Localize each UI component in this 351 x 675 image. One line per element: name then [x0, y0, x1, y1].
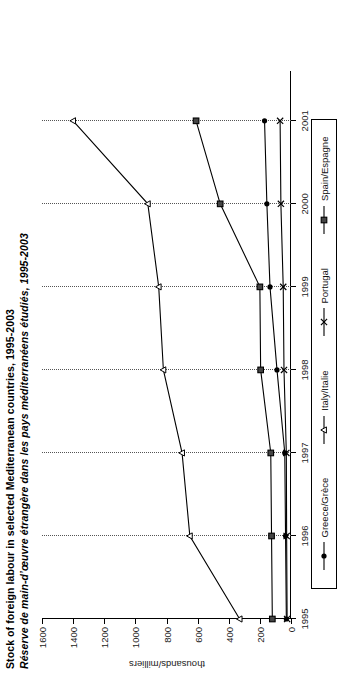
y-tick-label-200: 200	[254, 627, 265, 643]
y-tick-600	[198, 619, 199, 624]
legend-symbol-open-triangle-icon	[318, 415, 330, 445]
legend-item-italy-italie[interactable]: Italy/Italie	[318, 371, 330, 445]
y-tick-1000	[135, 619, 136, 624]
x-tick-label-1997: 1997	[299, 442, 310, 463]
x-tick-label-1995: 1995	[299, 608, 310, 629]
series-italy-italie	[70, 118, 242, 622]
x-tick-1998	[291, 369, 296, 370]
page-subtitle: Réserve de main-d’œuvre étrangère dans l…	[18, 109, 31, 669]
y-tick-800	[167, 619, 168, 624]
y-tick-1400	[73, 619, 74, 624]
x-tick-2000	[291, 203, 296, 204]
x-tick-label-1998: 1998	[299, 359, 310, 380]
marker-filled-circle	[262, 118, 267, 123]
marker-filled-circle	[321, 554, 326, 559]
marker-filled-square	[258, 367, 264, 373]
series-spain-espagne	[193, 118, 275, 622]
x-tick-label-1996: 1996	[299, 525, 310, 546]
x-tick-label-2001: 2001	[299, 110, 310, 131]
y-tick-label-600: 600	[192, 627, 203, 643]
legend-symbol-filled-square-icon	[318, 205, 330, 235]
rotated-chart-canvas: Stock of foreign labour in selected Medi…	[0, 0, 351, 675]
legend-label: Portugal	[319, 268, 330, 303]
legend-label: Greece/Grèce	[319, 478, 330, 538]
y-tick-label-400: 400	[223, 627, 234, 643]
marker-filled-circle	[264, 201, 269, 206]
plot-area: 02004006008001000120014001600 1995199619…	[42, 71, 291, 619]
x-tick-1995	[291, 618, 296, 619]
y-tick-label-1200: 1200	[99, 627, 110, 648]
y-axis-title-text: thousands/milliers	[128, 659, 204, 670]
legend-label: Italy/Italie	[319, 371, 330, 411]
series-greece-gr-ce	[262, 118, 289, 621]
marker-filled-square	[193, 118, 199, 124]
marker-filled-circle	[267, 284, 272, 289]
y-tick-0	[291, 619, 292, 624]
series-layer	[42, 71, 291, 619]
y-tick-1200	[104, 619, 105, 624]
marker-filled-square	[217, 201, 223, 207]
legend-item-portugal[interactable]: Portugal	[318, 268, 330, 337]
chart-legend: Greece/GrèceItaly/ItaliePortugalSpain/Es…	[311, 119, 337, 589]
legend-item-spain-espagne[interactable]: Spain/Espagne	[318, 137, 330, 235]
marker-filled-square	[270, 616, 276, 622]
legend-symbol-filled-circle-icon	[318, 541, 330, 571]
y-tick-label-1000: 1000	[130, 627, 141, 648]
marker-open-triangle	[70, 118, 76, 124]
y-tick-400	[229, 619, 230, 624]
marker-open-triangle	[236, 616, 242, 622]
marker-filled-circle	[274, 367, 279, 372]
x-tick-2001	[291, 120, 296, 121]
marker-filled-square	[257, 284, 263, 290]
marker-filled-square	[321, 217, 327, 223]
legend-label: Spain/Espagne	[319, 137, 330, 201]
y-tick-label-1600: 1600	[37, 627, 48, 648]
legend-symbol-cross-x-icon	[318, 308, 330, 338]
y-tick-label-800: 800	[161, 627, 172, 643]
x-tick-1997	[291, 452, 296, 453]
y-tick-200	[260, 619, 261, 624]
y-tick-label-1400: 1400	[68, 627, 79, 648]
y-axis-title: thousands/milliers	[42, 657, 291, 671]
y-tick-label-0: 0	[286, 627, 297, 632]
chart-title-block: Stock of foreign labour in selected Medi…	[4, 109, 31, 669]
page-title: Stock of foreign labour in selected Medi…	[4, 109, 17, 669]
marker-filled-square	[268, 450, 274, 456]
x-tick-1996	[291, 535, 296, 536]
marker-filled-square	[269, 533, 275, 539]
x-tick-label-2000: 2000	[299, 193, 310, 214]
x-tick-label-1999: 1999	[299, 276, 310, 297]
legend-item-greece-gr-ce[interactable]: Greece/Grèce	[318, 478, 330, 572]
x-tick-1999	[291, 286, 296, 287]
y-tick-1600	[42, 619, 43, 624]
chart-frame: Stock of foreign labour in selected Medi…	[0, 0, 351, 675]
